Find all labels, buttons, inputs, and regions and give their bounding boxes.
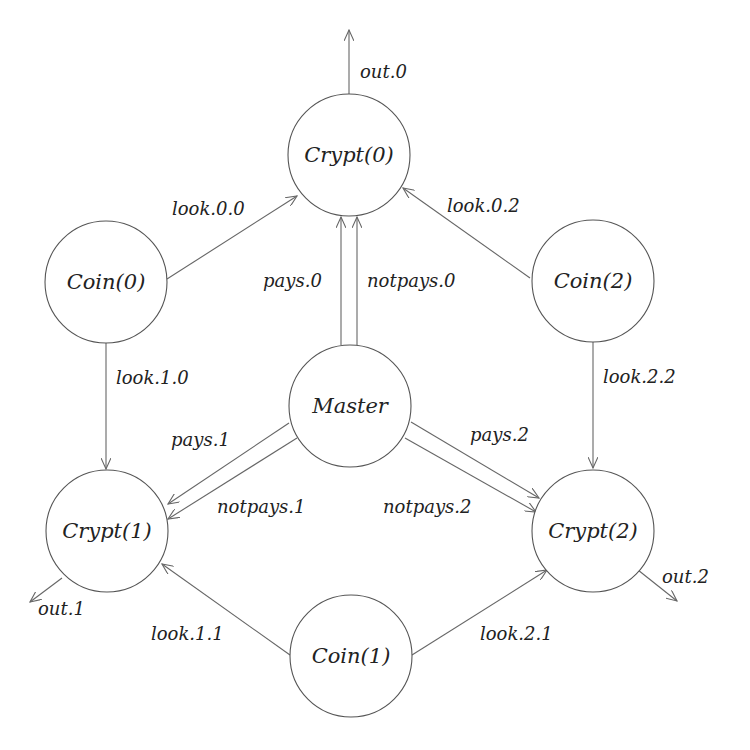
edge-label-notpays1: notpays.1 [217,496,306,517]
edge-label-look22: look.2.2 [603,366,676,387]
edge-label-pays2: pays.2 [470,424,529,445]
edge-label-look02: look.0.2 [447,195,520,216]
edge-label-out2: out.2 [662,566,709,587]
edge-label-look10: look.1.0 [116,367,189,388]
nodes-layer: Crypt(0)Coin(0)Coin(2)MasterCrypt(1)Cryp… [45,94,654,717]
edge-label-out0: out.0 [360,61,407,82]
edge-label-notpays2: notpays.2 [383,496,472,517]
edge-label-notpays0: notpays.0 [367,270,456,291]
node-label-crypt2: Crypt(2) [548,519,638,543]
edge-label-pays0: pays.0 [263,270,322,291]
node-crypt0: Crypt(0) [288,94,410,216]
node-coin1: Coin(1) [290,595,412,717]
edge-label-look11: look.1.1 [151,623,224,644]
edge-label-look00: look.0.0 [172,198,245,219]
node-coin0: Coin(0) [45,221,167,343]
node-crypt1: Crypt(1) [46,470,168,592]
node-label-coin2: Coin(2) [554,269,633,293]
node-label-crypt1: Crypt(1) [62,519,152,543]
node-label-coin0: Coin(0) [67,270,146,294]
node-coin2: Coin(2) [532,220,654,342]
node-label-crypt0: Crypt(0) [304,143,394,167]
edge-label-look21: look.2.1 [480,623,553,644]
edge-label-pays1: pays.1 [171,429,230,450]
node-crypt2: Crypt(2) [532,470,654,592]
node-label-coin1: Coin(1) [312,644,391,668]
process-network-diagram: Crypt(0)Coin(0)Coin(2)MasterCrypt(1)Cryp… [0,0,750,750]
node-label-master: Master [311,394,390,418]
edge-label-out1: out.1 [38,598,85,619]
node-master: Master [289,345,411,467]
